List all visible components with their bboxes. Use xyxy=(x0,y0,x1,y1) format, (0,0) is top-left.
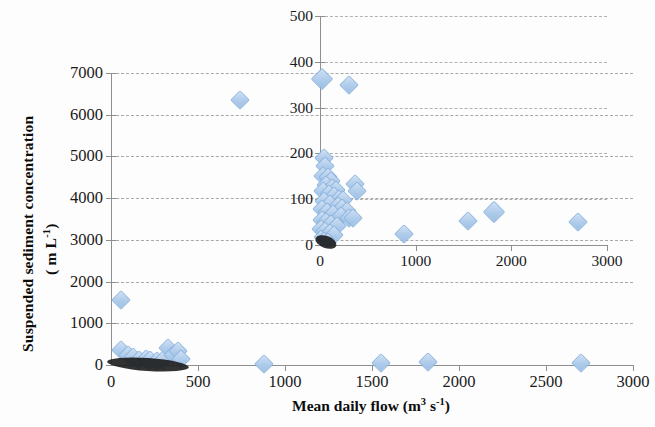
y-axis-tick-label: 6000 xyxy=(70,105,103,125)
y-axis-title-line2: ( m L-1) xyxy=(41,223,60,275)
y-axis-line xyxy=(111,73,112,365)
y-axis-tick-label: 400 xyxy=(290,53,313,71)
x-axis-title: Mean daily flow (m3 s-1) xyxy=(111,396,631,415)
data-point xyxy=(571,353,591,373)
y-axis-tick-label: 3000 xyxy=(70,230,103,250)
x-axis-tick xyxy=(546,365,547,371)
x-axis-tick xyxy=(198,365,199,371)
gridline-y xyxy=(320,108,607,109)
x-axis-tick-label: 2000 xyxy=(443,372,476,392)
y-axis-tick-label: 0 xyxy=(95,355,103,375)
gridline-y xyxy=(111,323,633,324)
y-axis-tick-label: 200 xyxy=(290,144,313,162)
y-axis-tick xyxy=(106,115,116,116)
gridline-y xyxy=(320,153,607,154)
y-axis-tick-label: 2000 xyxy=(70,272,103,292)
data-point xyxy=(371,353,391,373)
y-axis-tick-label: 0 xyxy=(305,236,313,254)
x-axis-tick-label: 1000 xyxy=(400,252,431,270)
x-axis-tick-label: 1500 xyxy=(356,372,389,392)
x-axis-tick xyxy=(607,245,608,251)
gridline-y xyxy=(320,199,607,200)
x-axis-tick xyxy=(285,365,286,371)
x-axis-tick xyxy=(511,245,512,251)
x-axis-tick xyxy=(416,245,417,251)
y-axis-tick xyxy=(106,198,116,199)
y-axis-unit-prefix: ( m L xyxy=(42,238,59,275)
x-axis-tick xyxy=(372,365,373,371)
y-axis-tick-label: 7000 xyxy=(70,63,103,83)
x-axis-tick-label: 0 xyxy=(316,252,324,270)
gridline-y xyxy=(320,16,607,17)
x-axis-tick-label: 0 xyxy=(107,372,115,392)
y-axis-tick xyxy=(106,323,116,324)
y-axis-title: Suspended sediment concentration ( m L-1… xyxy=(0,0,56,390)
gridline-y xyxy=(111,282,633,283)
y-axis-tick xyxy=(106,240,116,241)
x-axis-title-prefix: Mean daily flow (m xyxy=(292,397,421,414)
data-point xyxy=(254,354,274,374)
y-axis-tick xyxy=(315,16,325,17)
y-axis-tick-label: 500 xyxy=(290,7,313,25)
figure-scatter-plot: Suspended sediment concentration ( m L-1… xyxy=(0,0,655,427)
data-point xyxy=(394,224,414,244)
y-axis-tick xyxy=(315,108,325,109)
x-axis-tick-label: 3000 xyxy=(617,372,650,392)
x-axis-tick-label: 500 xyxy=(186,372,211,392)
y-axis-tick-label: 300 xyxy=(290,99,313,117)
data-point xyxy=(112,290,132,310)
y-axis-title-line1: Suspended sediment concentration xyxy=(19,116,37,352)
data-point xyxy=(230,90,250,110)
data-point xyxy=(339,75,359,95)
data-point xyxy=(568,212,588,232)
x-axis-tick-label: 2000 xyxy=(496,252,527,270)
data-point xyxy=(458,211,478,231)
x-axis-tick-label: 3000 xyxy=(592,252,623,270)
data-point xyxy=(418,352,438,372)
y-axis-unit-suffix: ) xyxy=(42,223,59,228)
y-axis-tick xyxy=(315,62,325,63)
y-axis-tick-label: 100 xyxy=(290,190,313,208)
x-axis-tick-label: 1000 xyxy=(269,372,302,392)
x-axis-tick xyxy=(459,365,460,371)
y-axis-tick xyxy=(106,73,116,74)
x-axis-unit-exponent-2: -1 xyxy=(436,396,445,407)
x-axis-tick xyxy=(633,365,634,371)
data-point xyxy=(483,201,506,224)
x-axis-title-mid: s xyxy=(426,397,436,414)
inset-plot-area: 01002003004005000100020003000 xyxy=(320,16,607,245)
x-axis-line xyxy=(320,245,607,246)
y-axis-tick-label: 1000 xyxy=(70,313,103,333)
y-axis-unit-exponent: -1 xyxy=(41,229,52,238)
y-axis-tick xyxy=(106,282,116,283)
x-axis-tick-label: 2500 xyxy=(530,372,563,392)
y-axis-tick-label: 4000 xyxy=(70,188,103,208)
x-axis-title-suffix: ) xyxy=(445,397,450,414)
y-axis-tick-label: 5000 xyxy=(70,146,103,166)
y-axis-tick xyxy=(106,156,116,157)
gridline-y xyxy=(320,62,607,63)
